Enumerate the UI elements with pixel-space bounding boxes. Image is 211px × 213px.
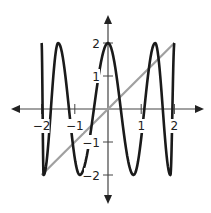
x-tick-label: 1 [137, 119, 145, 133]
y-axis-up-arrow-icon [104, 15, 112, 24]
y-axis-down-arrow-icon [104, 195, 112, 204]
x-tick-label: −2 [33, 119, 51, 133]
y-tick-label: 2 [92, 37, 100, 51]
x-tick-label: −1 [66, 119, 84, 133]
x-axis-right-arrow-icon [195, 105, 204, 113]
x-axis-left-arrow-icon [11, 105, 20, 113]
chart: −2−11221−1−2 [0, 0, 211, 213]
y-tick-label: 1 [92, 70, 100, 84]
x-tick-label: 2 [171, 119, 179, 133]
y-tick-label: −1 [82, 136, 100, 150]
y-tick-label: −2 [82, 169, 100, 183]
